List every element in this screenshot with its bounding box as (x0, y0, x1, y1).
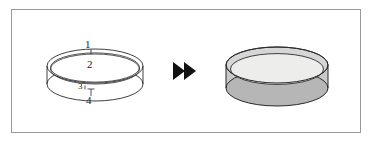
left-dish-group (47, 49, 143, 101)
figure-drawing-canvas (0, 0, 373, 145)
callout-label-2: 2 (87, 59, 93, 70)
callout-label-1: 1 (85, 39, 91, 50)
right-dish-group (226, 47, 328, 106)
figure-root: 1 2 3 4 (0, 0, 373, 145)
right-dish-contents (231, 54, 324, 85)
left-dish-inner-wall (51, 54, 140, 84)
callout-label-3: 3 (78, 82, 83, 91)
double-chevron-arrow (173, 62, 196, 80)
callout-label-4: 4 (86, 95, 92, 106)
